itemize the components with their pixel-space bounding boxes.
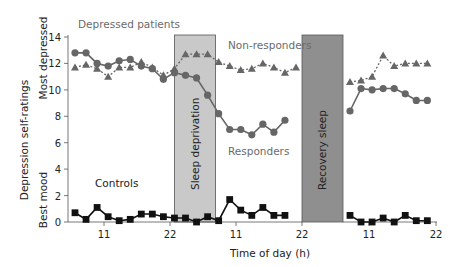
svg-text:10: 10	[48, 85, 61, 96]
data-point-square	[83, 216, 90, 223]
y-label-most-depressed: Most depressed	[37, 17, 49, 100]
depressed-patients-title: Depressed patients	[78, 18, 180, 30]
svg-text:22: 22	[430, 229, 443, 240]
svg-text:6: 6	[55, 138, 61, 149]
data-point-square	[182, 215, 189, 222]
svg-text:11: 11	[98, 229, 111, 240]
data-point-triangle	[379, 52, 387, 59]
controls-label: Controls	[95, 177, 138, 189]
data-point-square	[193, 219, 200, 226]
data-point-triangle	[292, 63, 300, 70]
plot-series	[71, 49, 431, 225]
data-point-triangle	[259, 59, 267, 66]
non-responders-label: Non-responders	[228, 39, 311, 51]
data-point-circle	[402, 90, 409, 97]
data-point-circle	[82, 49, 89, 56]
svg-text:11: 11	[230, 229, 243, 240]
recovery-sleep-label: Recovery sleep	[316, 110, 328, 190]
y-axis-title: Depression self-ratings	[18, 80, 30, 200]
data-point-triangle	[346, 78, 354, 85]
data-point-circle	[149, 65, 156, 72]
data-point-circle	[248, 131, 255, 138]
data-point-square	[116, 217, 123, 224]
data-point-circle	[116, 57, 123, 64]
data-point-square	[248, 212, 255, 219]
sleep-deprivation-label: Sleep deprivation	[189, 98, 201, 190]
data-point-square	[282, 212, 289, 219]
data-point-triangle	[82, 61, 90, 68]
data-point-square	[271, 212, 278, 219]
data-point-circle	[127, 56, 134, 63]
y-tick-labels: 14 12 10 8 6 4 2 0	[48, 32, 61, 228]
data-point-square	[94, 204, 101, 211]
data-point-circle	[71, 49, 78, 56]
data-point-circle	[270, 129, 277, 136]
data-point-circle	[357, 85, 364, 92]
x-axis	[68, 222, 437, 226]
data-point-square	[127, 216, 134, 223]
data-point-triangle	[368, 73, 376, 80]
data-point-square	[171, 215, 178, 222]
data-point-triangle	[126, 63, 134, 70]
data-point-circle	[237, 126, 244, 133]
svg-text:22: 22	[296, 229, 309, 240]
data-point-square	[380, 215, 387, 222]
data-point-circle	[281, 117, 288, 124]
data-point-square	[358, 219, 365, 226]
data-point-circle	[182, 72, 189, 79]
data-point-square	[72, 209, 79, 216]
data-point-square	[204, 213, 211, 220]
x-tick-labels: 11 22 11 22 11 22	[98, 229, 443, 240]
data-point-square	[160, 213, 167, 220]
data-point-circle	[226, 126, 233, 133]
data-point-triangle	[281, 69, 289, 76]
data-point-circle	[215, 110, 222, 117]
data-point-circle	[160, 76, 167, 83]
data-point-triangle	[71, 63, 79, 70]
data-point-square	[237, 207, 244, 214]
data-point-square	[259, 204, 266, 211]
depression-chart: Sleep deprivation Recovery sleep 14 12 1…	[0, 0, 459, 267]
data-point-square	[424, 217, 431, 224]
data-point-square	[226, 196, 233, 203]
x-axis-title: Time of day (h)	[229, 247, 310, 259]
svg-text:22: 22	[164, 229, 177, 240]
data-point-square	[138, 211, 145, 218]
data-point-circle	[138, 62, 145, 69]
data-point-square	[369, 219, 376, 226]
data-point-circle	[424, 97, 431, 104]
data-point-circle	[105, 62, 112, 69]
data-point-square	[149, 211, 156, 218]
svg-text:0: 0	[55, 217, 61, 228]
data-point-square	[402, 212, 409, 219]
svg-text:4: 4	[55, 164, 61, 175]
data-point-circle	[259, 121, 266, 128]
data-point-circle	[193, 74, 200, 81]
data-point-square	[391, 219, 398, 226]
responders-label: Responders	[228, 145, 289, 157]
y-label-best-mood: Best mood	[37, 172, 49, 228]
svg-text:8: 8	[55, 111, 61, 122]
svg-text:11: 11	[363, 229, 376, 240]
svg-text:12: 12	[48, 58, 61, 69]
data-point-triangle	[248, 65, 256, 72]
data-point-square	[413, 217, 420, 224]
y-axis	[64, 35, 68, 222]
data-point-square	[215, 217, 222, 224]
data-point-circle	[369, 86, 376, 93]
data-point-circle	[346, 107, 353, 114]
svg-text:14: 14	[48, 32, 61, 43]
data-point-circle	[94, 60, 101, 67]
data-point-circle	[413, 97, 420, 104]
svg-text:2: 2	[55, 191, 61, 202]
data-point-circle	[391, 85, 398, 92]
data-point-circle	[380, 85, 387, 92]
data-point-square	[105, 213, 112, 220]
data-point-circle	[204, 92, 211, 99]
data-point-square	[347, 212, 354, 219]
data-point-triangle	[270, 63, 278, 70]
data-point-circle	[171, 69, 178, 76]
